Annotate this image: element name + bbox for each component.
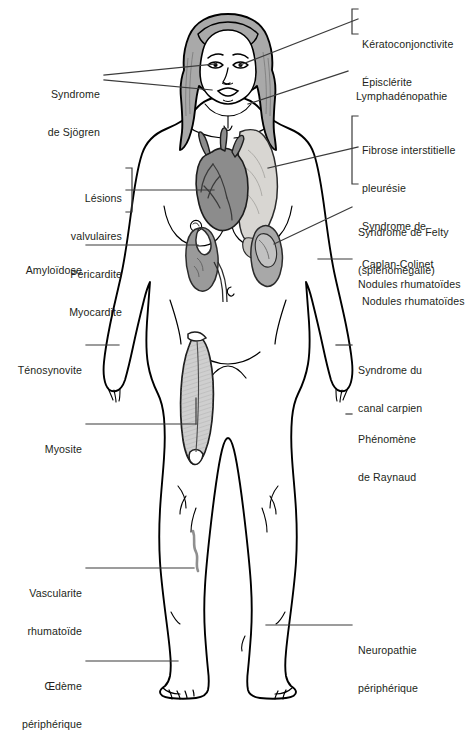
heart: [196, 128, 248, 231]
label-oedeme-line-0: Œdème: [2, 680, 82, 693]
label-sjogren[interactable]: Syndrome de Sjögren: [6, 63, 100, 164]
label-raynaud-line-0: Phénomène: [358, 433, 452, 446]
label-tenosynovite-line-0: Ténosynovite: [2, 364, 82, 377]
label-neuropathie[interactable]: Neuropathie périphérique: [358, 619, 452, 720]
label-vascularite[interactable]: Vascularite rhumatoïde: [2, 562, 82, 663]
label-pulmonaire-line-1: pleurésie: [362, 182, 456, 195]
label-sjogren-line-1: de Sjögren: [6, 126, 100, 139]
label-nodules[interactable]: Nodules rhumatoïdes: [358, 253, 456, 316]
face: [200, 30, 256, 104]
spleen: [251, 226, 282, 287]
label-felty-line-0: Syndrome de Felty: [358, 226, 456, 239]
label-nodules-line-0: Nodules rhumatoïdes: [358, 278, 456, 291]
label-raynaud-line-1: de Raynaud: [358, 471, 452, 484]
label-raynaud[interactable]: Phénomène de Raynaud: [358, 408, 452, 509]
label-neuropathie-line-1: périphérique: [358, 682, 452, 695]
label-vascularite-line-0: Vascularite: [2, 587, 82, 600]
label-myosite-line-0: Myosite: [12, 443, 82, 456]
label-amyloidose[interactable]: Amyloïdose: [2, 239, 82, 302]
body-figure: [104, 14, 353, 699]
label-sjogren-line-0: Syndrome: [6, 88, 100, 101]
label-canal-carpien-line-0: Syndrome du: [358, 364, 452, 377]
label-tenosynovite[interactable]: Ténosynovite: [2, 339, 82, 402]
label-vascularite-line-1: rhumatoïde: [2, 625, 82, 638]
label-myosite[interactable]: Myosite: [12, 418, 82, 481]
label-amyloidose-line-0: Amyloïdose: [2, 264, 82, 277]
label-oedeme[interactable]: Œdème périphérique: [2, 655, 82, 734]
label-oedeme-line-1: périphérique: [2, 718, 82, 731]
label-pulmonaire-line-0: Fibrose interstitielle: [362, 144, 456, 157]
label-neuropathie-line-0: Neuropathie: [358, 644, 452, 657]
label-oculaire-line-0: Kératoconjonctivite: [362, 38, 456, 51]
label-lymphadenopathie-line-0: Lymphadénopathie: [356, 90, 456, 103]
label-cardiac-line-0: Lésions: [22, 192, 122, 205]
label-cardiac-line-3: Myocardite: [22, 306, 122, 319]
